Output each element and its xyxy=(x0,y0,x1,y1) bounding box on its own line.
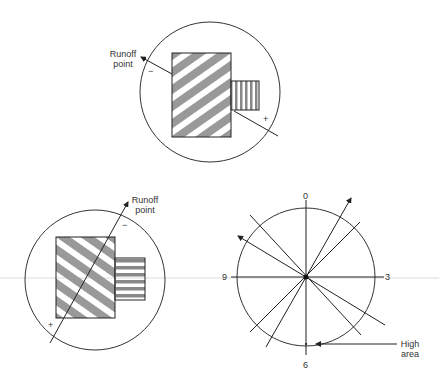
diagram-canvas xyxy=(0,0,439,379)
bottom-left-workpiece-figure xyxy=(25,202,165,350)
high-area-label: High area xyxy=(398,339,422,359)
clock-runout-figure xyxy=(231,198,397,355)
point-text: point xyxy=(128,205,162,215)
clock-label-9: 9 xyxy=(222,272,227,282)
top-plus-sign: + xyxy=(263,114,268,124)
top-workpiece-figure xyxy=(140,22,280,162)
top-minus-sign: − xyxy=(148,66,153,76)
clock-label-0: 0 xyxy=(303,191,308,201)
point-text: point xyxy=(105,59,141,69)
bottom-runoff-label: Runoff point xyxy=(128,195,162,215)
bottom-minus-sign: − xyxy=(122,220,127,230)
runoff-text: Runoff xyxy=(128,195,162,205)
clock-label-6: 6 xyxy=(303,360,308,370)
clock-label-3: 3 xyxy=(385,272,390,282)
area-text: area xyxy=(398,349,422,359)
bottom-plus-sign: + xyxy=(48,320,53,330)
top-runoff-label: Runoff point xyxy=(105,49,141,69)
runoff-text: Runoff xyxy=(105,49,141,59)
high-text: High xyxy=(398,339,422,349)
